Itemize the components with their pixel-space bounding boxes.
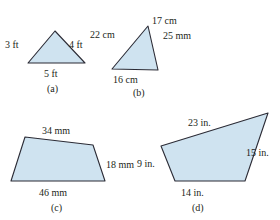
caption-a: (a) <box>47 84 58 94</box>
label-c-bottom: 46 mm <box>39 188 67 198</box>
caption-d: (d) <box>192 203 204 213</box>
label-d-right: 15 in. <box>246 148 269 158</box>
caption-c: (c) <box>51 203 62 213</box>
label-a-left: 3 ft <box>5 40 19 50</box>
label-b-extra: 25 mm <box>163 31 191 41</box>
caption-b: (b) <box>133 88 145 98</box>
label-b-right: 17 cm <box>152 16 177 26</box>
label-d-top: 23 in. <box>188 118 211 128</box>
shape-b-triangle <box>112 26 158 70</box>
label-b-left: 22 cm <box>90 30 115 40</box>
label-b-bottom: 16 cm <box>113 75 138 85</box>
label-a-bottom: 5 ft <box>44 69 58 79</box>
label-c-top: 34 mm <box>42 126 70 136</box>
geometry-figure-panel: 3 ft 4 ft 5 ft (a) 22 cm 17 cm 25 mm 16 … <box>0 0 280 220</box>
label-d-bottom: 14 in. <box>181 188 204 198</box>
label-a-right: 4 ft <box>69 40 83 50</box>
label-c-right: 18 mm <box>106 160 134 170</box>
label-d-left: 9 in. <box>137 159 155 169</box>
shape-c-quadrilateral <box>11 137 105 181</box>
